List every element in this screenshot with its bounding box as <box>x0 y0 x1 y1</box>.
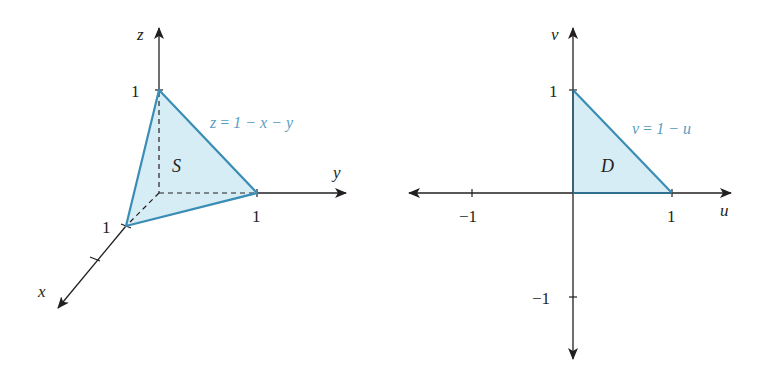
surface-figure: z y x 1 1 1 S z = 1 − x − y <box>37 25 346 308</box>
boundary-equation: v = 1 − u <box>632 120 691 137</box>
surface-equation-eq: = <box>220 114 229 131</box>
u-axis-label: u <box>720 201 729 220</box>
v-axis-label: v <box>551 25 559 44</box>
surface-equation-rhs: 1 − x − y <box>233 114 294 132</box>
boundary-equation-lhs: v <box>632 120 640 137</box>
surface-equation: z = 1 − x − y <box>209 114 294 132</box>
v-tick-label-1: 1 <box>549 82 558 101</box>
u-tick-label-neg1: −1 <box>459 207 477 226</box>
y-axis-label: y <box>331 163 341 182</box>
x-axis-label: x <box>37 282 46 301</box>
diagram-canvas: z y x 1 1 1 S z = 1 − x − y v u <box>0 0 772 378</box>
region-label-d: D <box>600 156 614 176</box>
surface-label-s: S <box>172 156 181 176</box>
z-axis-label: z <box>136 25 144 44</box>
v-tick-label-neg1: −1 <box>532 289 550 308</box>
boundary-equation-rhs: 1 − u <box>656 120 691 137</box>
u-tick-label-1: 1 <box>667 207 676 226</box>
y-tick-label: 1 <box>252 207 261 226</box>
z-tick-label: 1 <box>131 82 140 101</box>
x-tick-label: 1 <box>102 218 111 237</box>
surface-equation-lhs: z <box>209 114 217 131</box>
x-axis <box>58 226 126 308</box>
region-figure: v u 1 −1 −1 1 D v = 1 − u <box>409 25 731 359</box>
boundary-equation-eq: = <box>643 120 652 137</box>
